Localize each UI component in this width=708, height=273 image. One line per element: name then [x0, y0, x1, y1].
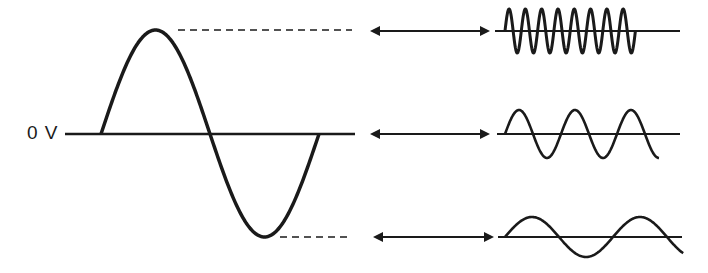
- frequency-waves: [495, 9, 683, 257]
- double-arrows: [372, 31, 492, 237]
- zero-volt-label: 0 V: [27, 122, 59, 144]
- waveform-diagram: [0, 0, 708, 273]
- main-sine-wave-group: [65, 30, 355, 237]
